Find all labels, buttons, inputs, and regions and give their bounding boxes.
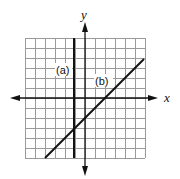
y-axis-top-arrow-icon — [82, 22, 88, 32]
x-axis — [10, 95, 158, 101]
line-b-label: (b) — [95, 75, 108, 87]
x-axis-left-arrow-icon — [10, 95, 20, 101]
line-a-label: (a) — [56, 64, 69, 76]
y-axis — [82, 22, 88, 176]
y-axis-bottom-arrow-icon — [82, 166, 88, 176]
x-axis-label: x — [163, 90, 170, 105]
x-axis-right-arrow-icon — [148, 95, 158, 101]
y-axis-label: y — [79, 7, 87, 22]
coordinate-graph: (a) (b) y x — [0, 0, 180, 179]
